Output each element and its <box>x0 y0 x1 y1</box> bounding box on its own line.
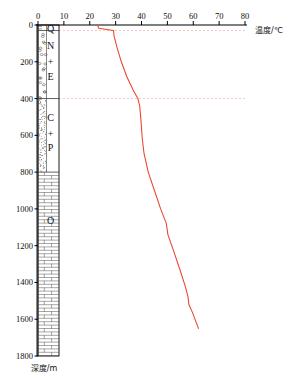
x-axis-tick-label: 60 <box>189 11 198 21</box>
y-axis-title: 深度/m <box>31 363 58 373</box>
x-axis-title: 温度/℃ <box>255 25 283 35</box>
lithology-unit-label-1: N <box>47 40 54 51</box>
y-axis-tick-label: 1200 <box>16 241 33 251</box>
x-axis-tick-label: 80 <box>241 11 250 21</box>
lithology-unit-label-3: E <box>47 71 53 82</box>
lithology-unit-label-2: + <box>48 56 54 67</box>
x-axis-tick-label: 20 <box>86 11 95 21</box>
y-axis-tick-label: 600 <box>20 130 33 140</box>
lithology-unit-label-7: O <box>47 215 54 226</box>
y-axis-tick-label: 200 <box>20 57 33 67</box>
x-axis-tick-label: 0 <box>36 11 40 21</box>
x-axis-tick-label: 50 <box>163 11 172 21</box>
lithology-unit-label-0: Q <box>47 23 55 34</box>
y-axis-tick-label: 1800 <box>16 351 33 361</box>
y-axis-tick-label: 1400 <box>16 277 33 287</box>
lithology-unit-label-6: P <box>48 142 54 153</box>
lithology-unit-label-5: + <box>48 128 54 139</box>
y-axis-tick-label: 1000 <box>16 204 33 214</box>
x-axis-tick-label: 10 <box>60 11 69 21</box>
lithology-unit-label-4: C <box>47 112 54 123</box>
chart-canvas: 01020304050607080温度/℃0200400600800100012… <box>0 0 293 378</box>
x-axis-tick-label: 40 <box>137 11 146 21</box>
y-axis-tick-label: 0 <box>29 20 33 30</box>
y-axis-tick-label: 1600 <box>16 314 33 324</box>
x-axis-tick-label: 30 <box>111 11 120 21</box>
temperature-curve <box>98 25 199 328</box>
x-axis-tick-label: 70 <box>215 11 224 21</box>
y-axis-tick-label: 800 <box>20 167 33 177</box>
well-temperature-depth-chart: 01020304050607080温度/℃0200400600800100012… <box>0 0 293 378</box>
y-axis-tick-label: 400 <box>20 94 33 104</box>
